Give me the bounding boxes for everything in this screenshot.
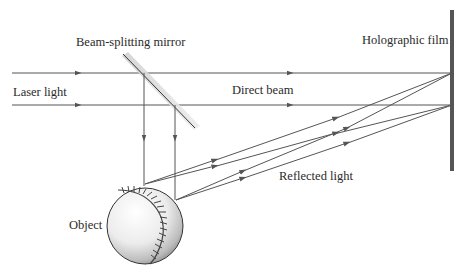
beam-splitting-mirror [122, 52, 200, 130]
label-holographic-film: Holographic film [362, 34, 448, 47]
label-object: Object [69, 219, 102, 232]
label-laser-light: Laser light [13, 86, 67, 99]
label-reflected-light: Reflected light [279, 170, 353, 183]
label-beam-splitting-mirror: Beam-splitting mirror [76, 36, 185, 49]
label-direct-beam: Direct beam [232, 84, 293, 97]
holographic-film [450, 10, 454, 171]
holography-diagram: Beam-splitting mirror Laser light Direct… [0, 0, 463, 275]
baseball-object [107, 186, 183, 264]
